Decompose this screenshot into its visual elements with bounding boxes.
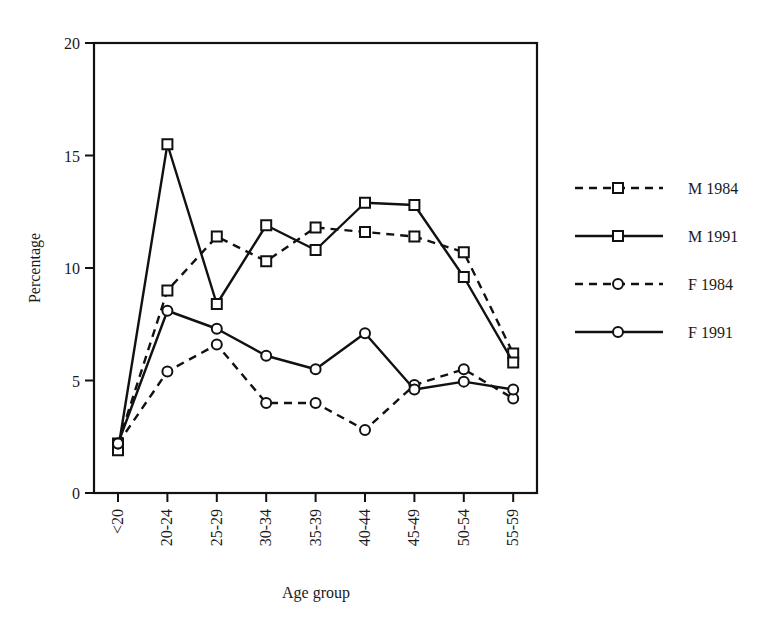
legend-square-icon xyxy=(613,231,623,241)
legend-label: M 1984 xyxy=(688,180,738,197)
circle-marker-icon xyxy=(360,328,370,338)
plot-frame xyxy=(94,43,537,493)
series-line xyxy=(118,345,513,444)
square-marker-icon xyxy=(162,286,172,296)
legend-circle-icon xyxy=(613,327,623,337)
x-tick-label: 45-49 xyxy=(405,509,422,546)
legend-item-f-1984: F 1984 xyxy=(575,276,733,293)
square-marker-icon xyxy=(409,232,419,242)
square-marker-icon xyxy=(212,232,222,242)
circle-marker-icon xyxy=(311,364,321,374)
circle-marker-icon xyxy=(311,398,321,408)
square-marker-icon xyxy=(162,139,172,149)
square-marker-icon xyxy=(459,272,469,282)
x-tick-label: 20-24 xyxy=(158,509,175,546)
square-marker-icon xyxy=(360,198,370,208)
y-tick-label: 5 xyxy=(72,373,80,390)
square-marker-icon xyxy=(261,256,271,266)
x-tick-label: 25-29 xyxy=(208,509,225,546)
legend-item-f-1991: F 1991 xyxy=(575,324,733,341)
circle-marker-icon xyxy=(212,324,222,334)
x-tick-label: <20 xyxy=(109,509,126,534)
x-axis: <2020-2425-2930-3435-3940-4445-4950-5455… xyxy=(109,493,521,546)
y-tick-label: 15 xyxy=(64,148,80,165)
circle-marker-icon xyxy=(162,367,172,377)
legend-label: F 1984 xyxy=(688,276,733,293)
circle-marker-icon xyxy=(162,306,172,316)
legend-label: M 1991 xyxy=(688,228,738,245)
circle-marker-icon xyxy=(409,385,419,395)
x-axis-title: Age group xyxy=(282,584,350,602)
y-tick-label: 0 xyxy=(72,485,80,502)
circle-marker-icon xyxy=(113,439,123,449)
square-marker-icon xyxy=(360,227,370,237)
circle-marker-icon xyxy=(212,340,222,350)
legend-circle-icon xyxy=(613,279,623,289)
x-tick-label: 30-34 xyxy=(257,509,274,546)
series-line xyxy=(118,228,513,444)
square-marker-icon xyxy=(459,247,469,257)
x-tick-label: 50-54 xyxy=(455,509,472,546)
y-tick-label: 10 xyxy=(64,260,80,277)
x-tick-label: 40-44 xyxy=(356,509,373,546)
plot-border xyxy=(94,43,537,493)
circle-marker-icon xyxy=(459,377,469,387)
circle-marker-icon xyxy=(459,364,469,374)
legend-item-m-1984: M 1984 xyxy=(575,180,738,197)
circle-marker-icon xyxy=(360,425,370,435)
circle-marker-icon xyxy=(261,398,271,408)
square-marker-icon xyxy=(311,245,321,255)
square-marker-icon xyxy=(508,358,518,368)
y-axis-title: Percentage xyxy=(26,233,44,303)
square-marker-icon xyxy=(311,223,321,233)
x-tick-label: 35-39 xyxy=(307,509,324,546)
square-marker-icon xyxy=(212,299,222,309)
y-tick-label: 20 xyxy=(64,35,80,52)
square-marker-icon xyxy=(261,220,271,230)
legend-label: F 1991 xyxy=(688,324,733,341)
series-layer xyxy=(113,139,518,455)
legend-square-icon xyxy=(613,183,623,193)
line-chart: 05101520 <2020-2425-2930-3435-3940-4445-… xyxy=(0,0,777,628)
x-tick-label: 55-59 xyxy=(504,509,521,546)
legend: M 1984M 1991F 1984F 1991 xyxy=(575,180,738,341)
circle-marker-icon xyxy=(508,385,518,395)
y-axis: 05101520 xyxy=(64,35,94,502)
series-f-1991 xyxy=(113,306,518,449)
series-m-1984 xyxy=(113,223,518,449)
series-line xyxy=(118,311,513,444)
legend-item-m-1991: M 1991 xyxy=(575,228,738,245)
square-marker-icon xyxy=(409,200,419,210)
series-f-1984 xyxy=(113,340,518,449)
circle-marker-icon xyxy=(261,351,271,361)
